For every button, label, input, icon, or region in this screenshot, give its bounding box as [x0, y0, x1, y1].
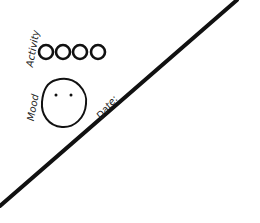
activity-circle-2[interactable]: [56, 45, 70, 59]
activity-circles: [39, 45, 105, 59]
mood-face-icon[interactable]: [42, 79, 86, 127]
sketch-canvas: Activity Mood Date:: [0, 0, 260, 223]
activity-circle-1[interactable]: [39, 45, 53, 59]
activity-circle-3[interactable]: [73, 45, 87, 59]
face-left-eye: [55, 94, 58, 97]
activity-circle-4[interactable]: [91, 45, 105, 59]
face-right-eye: [70, 94, 73, 97]
